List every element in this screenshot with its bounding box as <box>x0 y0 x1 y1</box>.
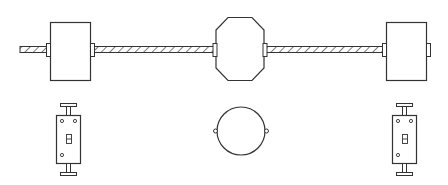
screw-hole <box>409 119 412 122</box>
left-toggle-switch <box>57 104 81 176</box>
cable-segment-center-right <box>265 47 383 53</box>
cable-segment-left-center <box>94 47 216 53</box>
round-cover <box>217 107 265 155</box>
cable-segment-left-in <box>20 47 47 53</box>
octagon-box-body <box>216 18 264 81</box>
screw-hole <box>60 153 63 156</box>
cable-connector-right <box>263 44 267 57</box>
cable-connector-right <box>427 44 431 57</box>
cable-connector-left <box>383 44 387 57</box>
wiring-diagram <box>0 0 448 185</box>
left-switch-box <box>47 23 95 81</box>
bottom-strap-stem <box>67 164 71 173</box>
screw-hole <box>73 119 76 122</box>
bottom-mounting-strap <box>397 173 413 176</box>
bottom-strap-stem <box>403 164 407 173</box>
cable-connector-right <box>91 44 95 57</box>
cable-connector-left <box>47 44 51 57</box>
center-junction-box <box>213 18 267 81</box>
mounting-ear-right <box>265 129 269 133</box>
box-body <box>51 23 91 81</box>
box-body <box>387 23 427 81</box>
right-switch-box <box>383 23 431 81</box>
top-strap-stem <box>67 107 71 116</box>
cable-connector-left <box>213 44 217 57</box>
mounting-ear-left <box>214 129 218 133</box>
right-toggle-switch <box>393 104 417 176</box>
screw-hole <box>396 119 399 122</box>
screw-hole <box>60 119 63 122</box>
top-strap-stem <box>403 107 407 116</box>
center-box-cover <box>214 107 269 155</box>
bottom-mounting-strap <box>61 173 77 176</box>
screw-hole <box>396 153 399 156</box>
